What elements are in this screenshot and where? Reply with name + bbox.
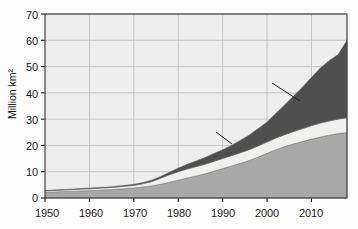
chart-container: Million km² 70 60 50 40 30 20 10 0 1950 … <box>0 0 358 229</box>
plot-area <box>0 0 358 229</box>
